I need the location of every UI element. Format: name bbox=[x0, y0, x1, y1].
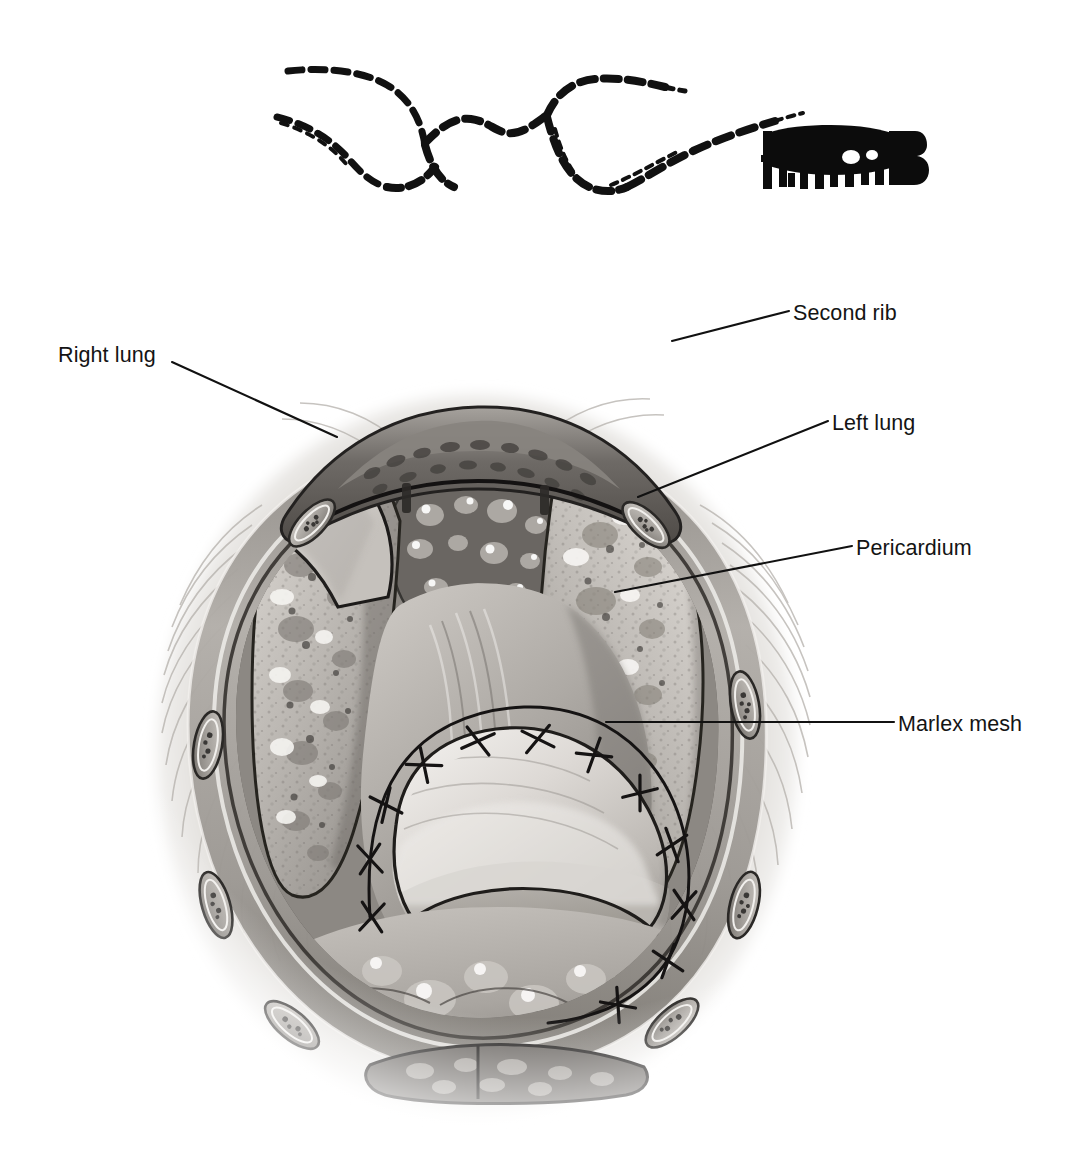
artist-signature bbox=[255, 45, 935, 210]
anatomical-illustration bbox=[0, 205, 1069, 1145]
medical-illustration-figure: Second rib Left lung Pericardium Marlex … bbox=[0, 0, 1069, 1161]
signature-monogram bbox=[761, 125, 929, 189]
